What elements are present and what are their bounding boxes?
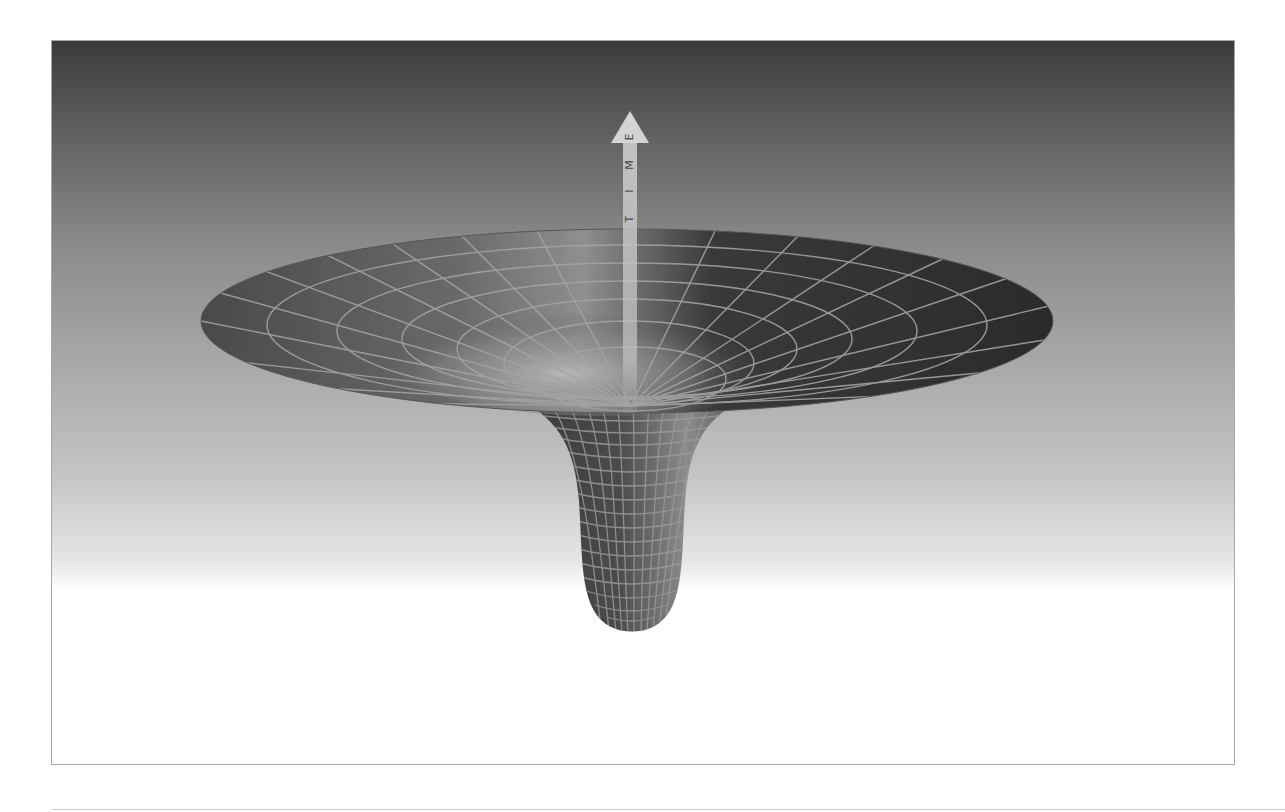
gravity-well-illustration: T I M E [52,41,1235,765]
time-arrow-shaft [623,141,637,413]
time-letter-m: M [623,160,636,170]
funnel-throat [521,401,741,633]
figure-frame: T I M E [51,40,1235,765]
bottom-divider [52,809,1285,810]
time-letter-e: E [623,133,636,140]
time-letter-t: T [623,215,636,223]
time-letter-i: I [623,189,636,192]
